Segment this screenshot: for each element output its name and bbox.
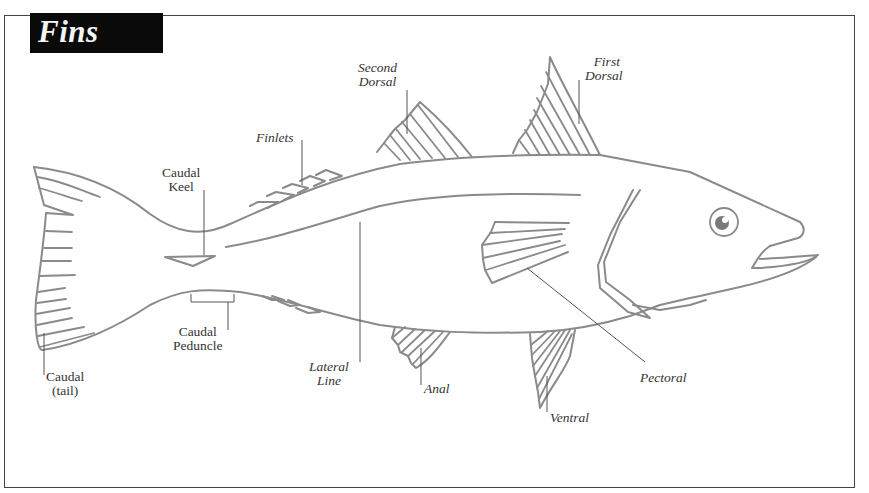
label-line: Caudal: [173, 325, 223, 339]
label-pectoral: Pectoral: [640, 371, 687, 385]
label-first-dorsal: First Dorsal: [585, 55, 623, 83]
label-line: Dorsal: [358, 75, 397, 89]
label-line: Line: [309, 374, 349, 388]
label-line: Ventral: [550, 411, 589, 425]
fish-illustration: [0, 0, 869, 493]
ventral-finlets: [262, 296, 320, 313]
label-finlets: Finlets: [256, 131, 294, 145]
label-line: (tail): [46, 384, 84, 398]
label-caudal-keel: Caudal Keel: [162, 166, 200, 194]
label-line: Lateral: [309, 360, 349, 374]
label-caudal-tail: Caudal (tail): [46, 370, 84, 398]
gill-lower-edge: [633, 300, 706, 310]
second-dorsal-fin: [377, 102, 472, 160]
leader-pectoral: [527, 268, 645, 362]
label-line: Peduncle: [173, 339, 223, 353]
dorsal-finlets: [250, 170, 342, 208]
label-line: Caudal: [46, 370, 84, 384]
label-line: Second: [358, 61, 397, 75]
caudal-keel: [165, 256, 215, 266]
mouth-outline: [752, 246, 818, 268]
label-second-dorsal: Second Dorsal: [358, 61, 397, 89]
label-lateral-line: Lateral Line: [309, 360, 349, 388]
label-line: Pectoral: [640, 371, 687, 385]
label-line: Caudal: [162, 166, 200, 180]
eye-highlight: [722, 217, 728, 223]
label-line: Anal: [424, 382, 450, 396]
gill-cover-outline: [598, 190, 650, 318]
fish-fins-diagram: Fins: [0, 0, 869, 493]
label-line: Finlets: [256, 131, 294, 145]
label-line: First: [585, 55, 623, 69]
pectoral-fin: [482, 222, 569, 283]
label-anal: Anal: [424, 382, 450, 396]
ventral-fin: [530, 330, 575, 408]
label-caudal-peduncle: Caudal Peduncle: [173, 325, 223, 353]
caudal-fin-rays: [36, 177, 100, 347]
label-line: Dorsal: [585, 69, 623, 83]
caudal-peduncle-bracket: [191, 294, 234, 302]
label-line: Keel: [162, 180, 200, 194]
label-ventral: Ventral: [550, 411, 589, 425]
